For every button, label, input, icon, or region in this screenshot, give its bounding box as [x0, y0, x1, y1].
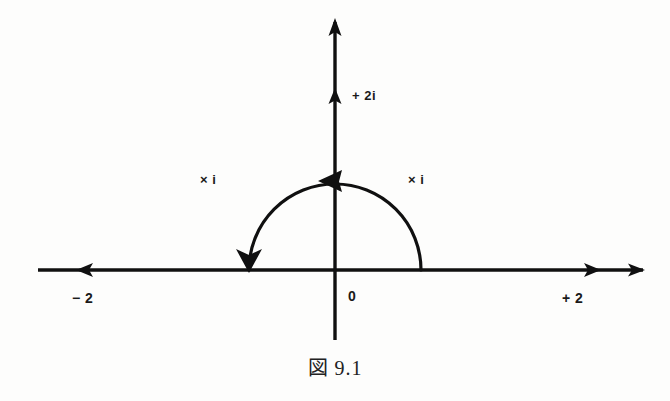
- annotation-times-i-right: × i: [408, 172, 424, 187]
- origin-label: 0: [348, 288, 356, 304]
- arc-apex-arrowhead-icon: [318, 170, 342, 192]
- axis-tick-label-plus-two-i: + 2i: [352, 88, 376, 103]
- complex-plane-diagram: [0, 0, 670, 401]
- figure-caption: 図 9.1: [0, 352, 670, 381]
- axis-tick-label-plus-two: + 2: [562, 290, 583, 306]
- annotation-times-i-left: × i: [200, 172, 216, 187]
- figure-container: − 2 + 2 0 + 2i × i × i 図 9.1: [0, 0, 670, 401]
- axis-tick-label-minus-two: − 2: [72, 290, 93, 306]
